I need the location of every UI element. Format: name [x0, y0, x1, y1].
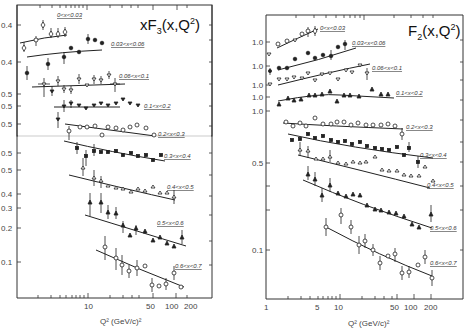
left-y-label: 0.5 [1, 166, 13, 175]
left-y-label: 0.4 [1, 58, 13, 67]
bin-label: 0.4<x<0.5 [167, 184, 194, 190]
right-y-label: 1.0 [252, 81, 264, 90]
right-x-ticks [288, 294, 431, 299]
right-bin-labels: 0<x<0.03 0.03<x<0.06 0.06<x<0.1 0.1<x<0.… [320, 25, 457, 266]
left-x-axis-title: Q² (GeV/c)² [100, 317, 142, 326]
left-x-ticks [38, 293, 187, 298]
left-y-label: 0.5 [1, 90, 13, 99]
right-x-label: 200 [424, 303, 438, 312]
right-x-label: 1 [264, 303, 269, 312]
left-y-label: 0.3 [1, 204, 13, 213]
right-chart-title: F2(x,Q2) [408, 22, 461, 42]
left-y-label: 0.2 [1, 224, 13, 233]
bin-label: 0.5<x<0.6 [430, 225, 457, 231]
bin-label: 0.03<x<0.06 [111, 41, 145, 47]
bin-label: 0.06<x<0.1 [372, 65, 402, 71]
right-data-points [267, 26, 435, 286]
bin-label: 0<x<0.03 [57, 12, 83, 18]
right-y-label: 1.0 [252, 38, 264, 47]
right-x-axis-title: Q² (GeV/c)² [348, 319, 390, 328]
bin-label: 0.1<x<0.2 [396, 90, 423, 96]
figure: 0.4 0.4 0.5 0.5 0.5 0.5 0.5 0.4 0.3 0.2 … [0, 0, 471, 333]
left-data-points [22, 20, 184, 292]
left-fit-lines [20, 35, 186, 287]
bin-label: 0.06<x<0.1 [119, 73, 149, 79]
bin-label: 0<x<0.03 [320, 25, 346, 31]
left-top-ticks [40, 5, 187, 10]
left-y-label: 0.5 [1, 102, 13, 111]
right-y-label: 1.0 [252, 93, 264, 102]
bin-label: 0.2<x<0.3 [158, 131, 185, 137]
right-top-ticks [296, 15, 433, 20]
left-y-label: 0.1 [1, 258, 13, 267]
bin-label: 0.3<x<0.4 [164, 153, 191, 159]
bin-label: 0.1<x<0.2 [144, 103, 171, 109]
right-x-label: 10 [334, 303, 343, 312]
left-x-labels: 10 50 100 200 [84, 302, 198, 311]
right-y-labels: 1.0 1.0 1.0 1.0 1.0 0.5 0.1 [252, 38, 264, 255]
bin-label: 0.5<x<0.6 [157, 220, 184, 226]
left-y-labels: 0.4 0.4 0.5 0.5 0.5 0.5 0.5 0.4 0.3 0.2 … [1, 21, 13, 267]
right-y-ticks [266, 42, 270, 250]
right-y-label: 0.5 [252, 159, 264, 168]
bin-label: 0.03<x<0.06 [352, 40, 386, 46]
left-panel-xf3: 0.4 0.4 0.5 0.5 0.5 0.5 0.5 0.4 0.3 0.2 … [1, 5, 212, 326]
left-y-label: 0.5 [1, 120, 13, 129]
left-x-label: 100 [165, 302, 179, 311]
left-y-label: 0.4 [1, 21, 13, 30]
left-x-label: 50 [146, 302, 155, 311]
bin-label: 0.4<x<0.5 [427, 182, 454, 188]
bin-label: 0.6<x<0.7 [430, 260, 457, 266]
left-x-label: 200 [184, 302, 198, 311]
right-x-labels: 1 5 10 50 100 200 [264, 303, 438, 312]
right-y-label: 1.0 [252, 107, 264, 116]
bin-label: 0.2<x<0.3 [406, 124, 433, 130]
left-y-label: 0.5 [1, 149, 13, 158]
right-y-label: 0.1 [252, 246, 264, 255]
left-y-label: 0.4 [1, 190, 13, 199]
right-y-label: 1.0 [252, 62, 264, 71]
right-x-label: 50 [390, 303, 399, 312]
right-panel-f2: 1.0 1.0 1.0 1.0 1.0 0.5 0.1 1 5 10 50 10… [252, 15, 463, 328]
left-chart-title: xF3(x,Q2) [140, 16, 200, 36]
left-y-ticks [17, 25, 21, 262]
right-x-label: 5 [315, 303, 320, 312]
left-x-label: 10 [84, 302, 93, 311]
bin-label: 0.6<x<0.7 [175, 263, 202, 269]
right-x-label: 100 [404, 303, 418, 312]
